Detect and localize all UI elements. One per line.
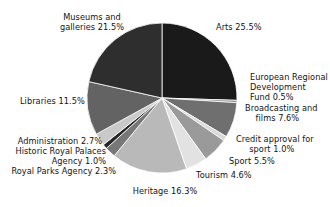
slice-label-tourism: Tourism 4.6%	[196, 170, 266, 180]
slice-label-museums-and-galleries: Museums and galleries 21.5%	[38, 12, 146, 32]
pie-slice	[162, 23, 237, 100]
slice-label-credit-approval-for-sport: Credit approval for sport 1.0%	[236, 134, 328, 154]
slice-label-historic-royal-palaces-agency: Historic Royal Palaces Agency 1.0%	[2, 146, 106, 166]
slice-label-sport: Sport 5.5%	[229, 156, 299, 166]
slice-label-european-regional-development-fund: European Regional Development Fund 0.5%	[250, 72, 328, 103]
slice-label-libraries: Libraries 11.5%	[20, 96, 102, 106]
slice-label-arts: Arts 25.5%	[216, 22, 296, 32]
pie-chart: Museums and galleries 21.5% Arts 25.5% E…	[0, 0, 330, 207]
slice-label-heritage: Heritage 16.3%	[119, 186, 211, 196]
slice-label-broadcasting-and-films: Broadcasting and films 7.6%	[245, 103, 329, 123]
slice-label-royal-parks-agency: Royal Parks Agency 2.3%	[2, 166, 116, 176]
pie-slices-group	[87, 23, 237, 173]
slice-label-administration: Administration 2.7%	[2, 136, 102, 146]
